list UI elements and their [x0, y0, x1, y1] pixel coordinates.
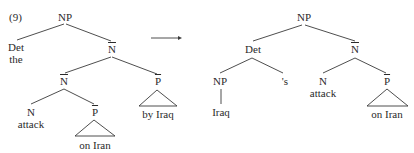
right-on-iran: on Iran	[371, 108, 402, 120]
right-root-np: NP	[297, 11, 311, 23]
example-number: (9)	[9, 11, 22, 23]
syntax-tree-diagram: (9) NP Det the N N P by Iraq N attack P …	[0, 0, 414, 153]
branch-np-nbar-right	[305, 25, 355, 41]
triangle-on-iran-left	[75, 120, 115, 136]
branch-np-det	[17, 24, 64, 40]
left-det: Det	[8, 41, 24, 53]
right-np: NP	[213, 75, 227, 87]
left-pbar-right: P	[155, 75, 161, 87]
left-nbar-top: N	[108, 43, 116, 55]
arrow-head-icon	[178, 36, 182, 40]
triangle-by-iraq	[139, 90, 177, 106]
branch-np-det-right	[253, 25, 302, 41]
right-n-word: attack	[310, 87, 336, 99]
right-pbar: P	[384, 75, 390, 87]
branch-nbar-pbar	[112, 57, 157, 74]
branch-nbar-nbar	[65, 57, 111, 73]
right-np-word: Iraq	[212, 106, 230, 118]
branch-det-poss	[252, 58, 283, 73]
triangle-on-iran-right	[367, 89, 408, 106]
right-det: Det	[245, 43, 261, 55]
branch-det-np	[220, 58, 252, 73]
left-n: N	[27, 106, 35, 118]
left-det-word: the	[9, 53, 22, 65]
branch-nbar-pbar-right	[355, 58, 386, 73]
left-on-iran: on Iran	[79, 139, 110, 151]
right-nbar: N	[351, 43, 359, 55]
branch-nbar-n	[31, 89, 64, 104]
branch-nbar-n-right	[323, 58, 355, 73]
left-n-word: attack	[18, 118, 44, 130]
left-pbar-inner: P	[92, 106, 98, 118]
branch-np-nbar	[66, 24, 111, 41]
left-by-iraq: by Iraq	[142, 108, 173, 120]
left-nbar-inner: N	[60, 75, 68, 87]
branch-nbar-pbar-inner	[64, 89, 94, 104]
right-possessive: 's	[282, 75, 288, 87]
right-n: N	[319, 75, 327, 87]
left-root-np: NP	[58, 11, 72, 23]
